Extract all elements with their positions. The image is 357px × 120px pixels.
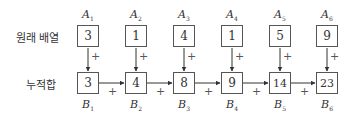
box-a6: 9 xyxy=(316,25,338,47)
box-b2: 4 xyxy=(125,72,147,94)
plus-sign: + xyxy=(187,50,196,63)
box-a2: 1 xyxy=(125,25,147,47)
label-a1: A1 xyxy=(76,8,100,22)
label-a2: A2 xyxy=(124,8,148,22)
plus-sign: + xyxy=(235,50,244,63)
box-a3: 4 xyxy=(173,25,195,47)
plus-sign: + xyxy=(252,85,261,98)
label-a6: A6 xyxy=(315,8,339,22)
box-a1: 3 xyxy=(77,25,99,47)
box-b5: 14 xyxy=(269,72,291,94)
label-b5: B5 xyxy=(268,98,292,112)
box-b6: 23 xyxy=(316,72,338,94)
label-a4: A4 xyxy=(220,8,244,22)
plus-sign: + xyxy=(300,85,309,98)
label-a5: A5 xyxy=(268,8,292,22)
box-a5: 5 xyxy=(269,25,291,47)
plus-sign: + xyxy=(156,85,165,98)
box-b1: 3 xyxy=(77,72,99,94)
label-b3: B3 xyxy=(172,98,196,112)
plus-sign: + xyxy=(91,50,100,63)
plus-sign: + xyxy=(330,50,339,63)
box-a4: 1 xyxy=(221,25,243,47)
label-b1: B1 xyxy=(76,98,100,112)
label-a3: A3 xyxy=(172,8,196,22)
box-b4: 9 xyxy=(221,72,243,94)
label-b4: B4 xyxy=(220,98,244,112)
label-b6: B6 xyxy=(315,98,339,112)
box-b3: 8 xyxy=(173,72,195,94)
plus-sign: + xyxy=(204,85,213,98)
plus-sign: + xyxy=(108,85,117,98)
label-b2: B2 xyxy=(124,98,148,112)
plus-sign: + xyxy=(139,50,148,63)
plus-sign: + xyxy=(283,50,292,63)
